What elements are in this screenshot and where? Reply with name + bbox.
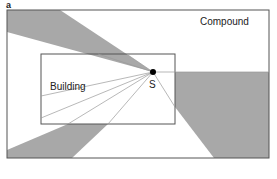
panel-label: a [6,0,12,10]
building-label: Building [50,81,86,92]
source-label: S [149,79,156,90]
compound-visibility-diagram: a S Building Compound [0,0,277,179]
shaded-region-bottom-left [7,124,108,158]
source-point [150,69,156,75]
shaded-region-right [175,72,269,158]
compound-label: Compound [200,16,249,27]
shaded-region-top-left [7,10,153,72]
